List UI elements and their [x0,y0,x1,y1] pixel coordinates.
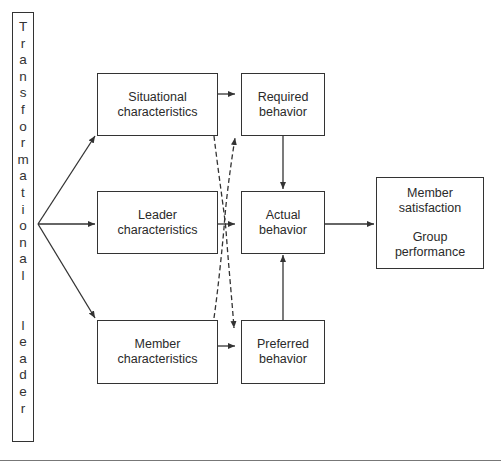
outcome-group: Group [413,230,448,245]
preferred-behavior-box: Preferred behavior [241,320,325,384]
box-label-line1: Member [135,337,181,352]
box-label-line2: characteristics [118,223,198,238]
outcome-performance: performance [395,245,465,260]
box-label-line2: behavior [259,223,307,238]
transformational-leader-label: T r a n s f o r m a t i o n a l l e a d … [13,19,33,417]
letter: o [19,119,27,136]
bottom-divider [0,460,501,461]
letter: e [19,384,27,401]
box-label-line1: Preferred [257,337,309,352]
letter: r [21,135,26,152]
letter: t [21,185,25,202]
letter: T [19,19,27,36]
letter: a [19,52,27,69]
box-label-line1: Required [258,90,309,105]
arrow-leader-to-member [38,224,95,318]
letter: o [19,218,27,235]
letter: a [19,351,27,368]
letter: n [19,235,27,252]
arrow-leader-to-situational [38,136,95,224]
box-label-line1: Leader [138,208,177,223]
letter: l [22,318,25,335]
leader-characteristics-box: Leader characteristics [97,191,218,254]
letter: a [19,168,27,185]
actual-behavior-box: Actual behavior [241,191,325,254]
letter: l [22,268,25,285]
outcomes-box: Member satisfaction Group performance [376,177,484,269]
letter: e [19,334,27,351]
letter: s [20,85,27,102]
box-label-line2: behavior [259,352,307,367]
letter: a [19,251,27,268]
outcome-satisfaction: satisfaction [399,201,462,216]
box-label-line2: characteristics [118,105,198,120]
box-label-line2: characteristics [118,352,198,367]
transformational-leader-bar: T r a n s f o r m a t i o n a l l e a d … [12,12,34,442]
letter: r [21,36,26,53]
letter: n [19,69,27,86]
box-label-line2: behavior [259,105,307,120]
member-characteristics-box: Member characteristics [97,320,218,384]
box-label-line1: Actual [266,208,301,223]
outcome-member: Member [407,186,453,201]
situational-characteristics-box: Situational characteristics [97,73,218,136]
letter: f [21,102,25,119]
letter: r [21,401,26,418]
box-label-line1: Situational [128,90,186,105]
letter: d [19,367,27,384]
letter: i [22,202,25,219]
required-behavior-box: Required behavior [241,73,325,136]
letter: m [17,152,28,169]
